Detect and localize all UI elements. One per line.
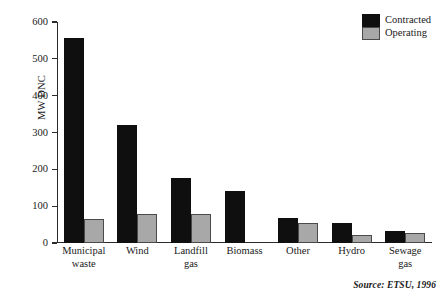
- bar-contracted: [171, 178, 191, 243]
- bar-group: [278, 22, 318, 243]
- bar-group: [171, 22, 211, 243]
- y-axis-tick-label: 100: [8, 199, 48, 213]
- bar-groups: [57, 22, 432, 243]
- bar-contracted: [117, 125, 137, 243]
- bar-group: [225, 22, 265, 243]
- bar-contracted: [332, 223, 352, 243]
- x-axis-label-line: waste: [51, 258, 117, 271]
- bar-group: [64, 22, 104, 243]
- bar-group: [117, 22, 157, 243]
- y-axis-tick-label: 0: [8, 236, 48, 250]
- x-axis-label-line: Sewage: [372, 245, 438, 258]
- y-axis-tick-label: 500: [8, 52, 48, 66]
- bar-contracted: [225, 191, 245, 243]
- bar-operating: [191, 214, 211, 243]
- chart-legend: Contracted Operating: [362, 14, 444, 40]
- y-axis-tick-label: 300: [8, 126, 48, 140]
- bar-chart: MW DNC 0100200300400500600 Municipalwast…: [0, 0, 444, 295]
- legend-swatch-operating: [362, 27, 380, 40]
- bar-contracted: [64, 38, 84, 243]
- bar-operating: [84, 219, 104, 243]
- legend-label-operating: Operating: [385, 26, 427, 40]
- x-axis-label: Sewagegas: [372, 245, 438, 270]
- x-axis-label-line: gas: [158, 258, 224, 271]
- y-axis-tick-label: 200: [8, 162, 48, 176]
- legend-item-operating: Operating: [362, 27, 444, 40]
- x-axis-label-line: gas: [372, 258, 438, 271]
- bar-contracted: [278, 218, 298, 243]
- bar-operating: [352, 235, 372, 243]
- bar-operating: [137, 214, 157, 243]
- legend-label-contracted: Contracted: [385, 13, 431, 27]
- y-axis-tick-label: 400: [8, 89, 48, 103]
- bar-group: [385, 22, 425, 243]
- y-axis-tick-label: 600: [8, 15, 48, 29]
- legend-swatch-contracted: [362, 14, 380, 27]
- bar-operating: [298, 223, 318, 243]
- source-note: Source: ETSU, 1996: [353, 280, 436, 290]
- bar-operating: [405, 233, 425, 243]
- bar-group: [332, 22, 372, 243]
- x-axis-labels: MunicipalwasteWindLandfillgasBiomassOthe…: [57, 245, 432, 281]
- bar-contracted: [385, 231, 405, 243]
